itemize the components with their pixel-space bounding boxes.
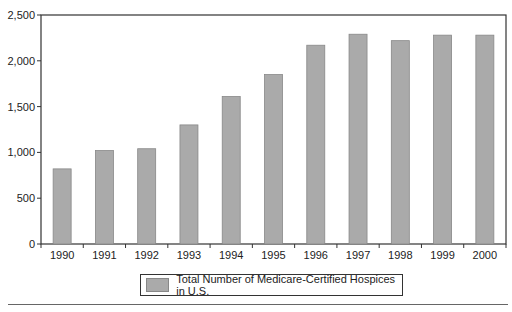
x-tick-label: 2000 (473, 249, 497, 261)
x-tick-label: 1999 (430, 249, 454, 261)
bar-1997 (349, 34, 367, 244)
x-tick-label: 1991 (92, 249, 116, 261)
legend-label: Total Number of Medicare-Certified Hospi… (176, 273, 402, 297)
bar-1995 (265, 75, 283, 244)
legend-swatch (146, 278, 169, 292)
x-tick-label: 1990 (50, 249, 74, 261)
y-tick-label: 1,500 (7, 101, 35, 113)
x-tick-label: 1994 (219, 249, 243, 261)
legend: Total Number of Medicare-Certified Hospi… (140, 274, 403, 296)
y-tick-label: 1,000 (7, 146, 35, 158)
x-tick-label: 1996 (304, 249, 328, 261)
y-tick-label: 500 (17, 192, 35, 204)
bar-1990 (53, 169, 71, 244)
bar-1998 (391, 41, 409, 244)
x-tick-label: 1997 (346, 249, 370, 261)
y-tick-label: 2,000 (7, 55, 35, 67)
bar-1999 (434, 35, 452, 244)
y-tick-label: 0 (29, 238, 35, 250)
x-tick-label: 1993 (177, 249, 201, 261)
x-tick-label: 1998 (388, 249, 412, 261)
y-tick-label: 2,500 (7, 9, 35, 21)
bar-1992 (138, 149, 156, 244)
bar-chart: 05001,0001,5002,0002,5001990199119921993… (0, 0, 512, 312)
bar-2000 (476, 35, 494, 244)
x-tick-label: 1995 (261, 249, 285, 261)
bar-1991 (95, 151, 113, 244)
bar-1994 (222, 97, 240, 244)
divider (8, 304, 508, 305)
x-tick-label: 1992 (134, 249, 158, 261)
bar-1993 (180, 125, 198, 244)
bar-1996 (307, 45, 325, 244)
